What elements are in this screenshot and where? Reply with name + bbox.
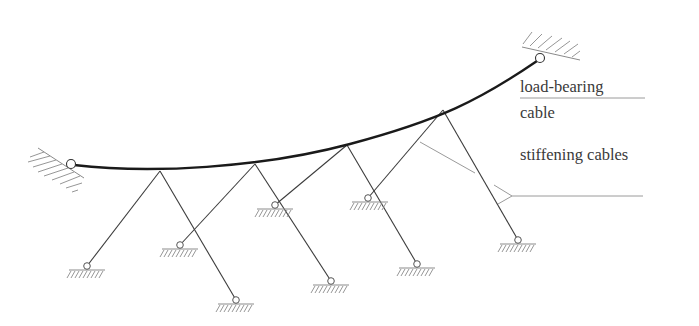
label-load-bearing-cable: load-bearing cable (520, 77, 645, 122)
label-stiffening-text: stiffening cables (520, 145, 628, 164)
pin-joints (84, 195, 522, 304)
left-anchor (28, 148, 84, 192)
label-cable-text: cable (520, 103, 555, 122)
label-stiffening-cables: stiffening cables (420, 142, 643, 204)
right-anchor (522, 32, 580, 60)
left-pin (67, 160, 76, 169)
stiffening-cables (87, 110, 518, 300)
cable-structure-diagram: load-bearing cable stiffening cables (0, 0, 699, 326)
label-load-bearing-text: load-bearing (520, 77, 603, 96)
right-pin (536, 54, 545, 63)
ground-supports (67, 202, 536, 312)
